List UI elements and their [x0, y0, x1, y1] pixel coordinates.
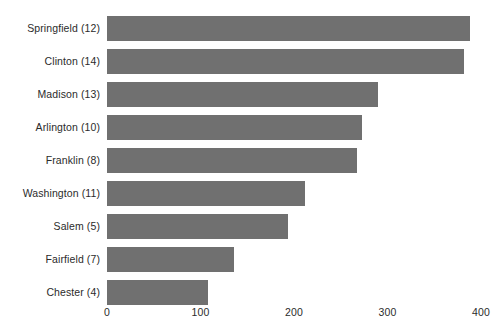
x-tick-label: 300	[379, 306, 397, 318]
x-tick-label: 400	[472, 306, 490, 318]
bar-category-label: Washington (11)	[23, 181, 100, 206]
bar	[107, 148, 357, 173]
bar	[107, 115, 362, 140]
bar-chart: Springfield (12)Clinton (14)Madison (13)…	[0, 0, 502, 334]
bar	[107, 49, 464, 74]
bar-row: Madison (13)	[0, 82, 502, 107]
x-tick-label: 200	[285, 306, 303, 318]
bar-category-label: Fairfield (7)	[46, 247, 100, 272]
bar-row: Salem (5)	[0, 214, 502, 239]
bar-row: Fairfield (7)	[0, 247, 502, 272]
bar-row: Springfield (12)	[0, 16, 502, 41]
bar-category-label: Springfield (12)	[27, 16, 100, 41]
x-tick-label: 100	[192, 306, 210, 318]
bar	[107, 82, 378, 107]
bar-category-label: Chester (4)	[46, 280, 100, 305]
bar-row: Clinton (14)	[0, 49, 502, 74]
bar-category-label: Madison (13)	[38, 82, 100, 107]
plot-area: Springfield (12)Clinton (14)Madison (13)…	[0, 0, 502, 334]
bar-row: Arlington (10)	[0, 115, 502, 140]
x-axis-tick-labels: 0100200300400	[0, 306, 502, 326]
bar	[107, 181, 305, 206]
bar-row: Chester (4)	[0, 280, 502, 305]
x-tick-label: 0	[104, 306, 110, 318]
bar-category-label: Salem (5)	[54, 214, 100, 239]
bar-category-label: Arlington (10)	[36, 115, 100, 140]
bar	[107, 214, 288, 239]
bar	[107, 16, 470, 41]
bar-category-label: Franklin (8)	[46, 148, 100, 173]
bar	[107, 247, 234, 272]
bar-category-label: Clinton (14)	[45, 49, 100, 74]
bar-row: Washington (11)	[0, 181, 502, 206]
bar-row: Franklin (8)	[0, 148, 502, 173]
bar	[107, 280, 208, 305]
